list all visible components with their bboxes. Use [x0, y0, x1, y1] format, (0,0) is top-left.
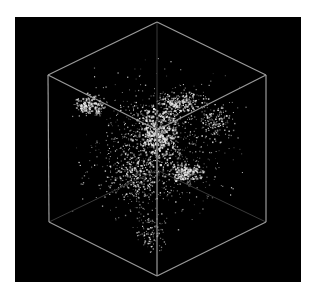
cube-edge	[48, 22, 157, 75]
cube-edge	[49, 222, 157, 276]
cube-edge	[48, 75, 157, 130]
cube-edge	[48, 75, 49, 222]
point-cloud	[72, 58, 247, 253]
cube-edge	[157, 170, 266, 222]
cut-off-caption	[0, 0, 313, 16]
point-cloud-render	[15, 17, 301, 282]
cube-scene	[15, 17, 301, 282]
cube-edge	[157, 22, 266, 75]
cube-edge	[157, 222, 266, 276]
